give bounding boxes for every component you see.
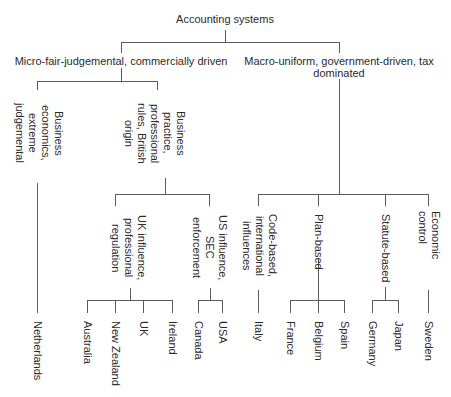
node-label-line: practice, [161,103,174,164]
node-business-practice: Business practice, professional rules, B… [122,103,187,164]
node-label-line: professional [148,103,161,164]
node-business-economics: Business economics, extreme judgemental [13,103,65,163]
node-label-line: judgemental [13,103,26,163]
leaf-uk: UK [137,321,150,336]
leaf-germany: Germany [366,321,379,366]
node-label-line: professional [122,215,135,280]
node-label-line: extreme [26,103,39,163]
leaf-belgium: Belgium [312,321,325,361]
node-label-line: US influence, [216,215,229,280]
leaf-ireland: Ireland [166,321,179,355]
node-micro-fair-judgemental: Micro-fair-judgemental, commercially dri… [15,55,228,67]
node-macro-uniform: Macro-uniform, government-driven, tax do… [244,55,434,79]
node-uk-influence: UK influence, professional regulation [109,215,148,280]
node-statute-based: Statute-based [379,214,392,283]
node-label-line: regulation [109,215,122,280]
leaf-spain: Spain [338,321,351,349]
node-label-line: influences [240,214,253,277]
node-label-line: Macro-uniform, government-driven, tax [244,55,434,67]
node-us-influence: US influence, SEC enforcement [190,215,229,280]
leaf-netherlands: Netherlands [31,321,44,380]
node-label-line: economics, [39,103,52,163]
leaf-italy: Italy [252,321,265,341]
leaf-sweden: Sweden [422,321,435,361]
root-node-title: Accounting systems [176,13,274,25]
node-label-line: control [416,211,429,259]
node-plan-based: Plan-based [312,214,325,270]
leaf-japan: Japan [392,321,405,351]
node-label-line: UK influence, [135,215,148,280]
node-label-line: dominated [244,67,434,79]
node-label-line: Statute-based [379,214,392,283]
node-label-line: enforcement [190,215,203,280]
leaf-usa: USA [216,321,229,344]
node-label-line: Code-based, [266,214,279,277]
node-label-line: international [253,214,266,277]
node-label-line: Business [174,103,187,164]
leaf-new-zealand: New Zealand [109,321,122,386]
leaf-france: France [284,321,297,355]
node-label-line: origin [122,103,135,164]
node-label-line: Economic [429,211,442,259]
node-label-line: SEC [203,215,216,280]
leaf-canada: Canada [192,321,205,360]
node-code-based: Code-based, international influences [240,214,279,277]
node-label-line: rules, British [135,103,148,164]
node-label-line: Business [52,103,65,163]
node-label-line: Plan-based [312,214,325,270]
node-economic-control: Economic control [416,211,442,259]
leaf-australia: Australia [81,321,94,364]
